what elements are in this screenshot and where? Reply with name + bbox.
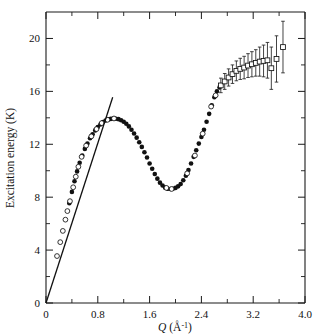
x-tick-label: 4.0 — [298, 308, 312, 320]
data-point-filled — [194, 148, 199, 153]
data-point-open-circle — [68, 199, 73, 204]
y-axis-title-text: Excitation energy (K) — [4, 108, 17, 208]
data-point-filled — [132, 131, 137, 136]
data-point-filled — [70, 190, 75, 195]
chart-svg: 00.81.62.43.24.0048121620 Q (Å-1) Excita… — [0, 0, 322, 336]
data-point-filled — [129, 127, 134, 132]
y-tick-label: 0 — [35, 297, 41, 309]
data-point-filled — [152, 172, 157, 177]
data-point-open-circle — [60, 229, 65, 234]
data-point-open-circle — [84, 143, 89, 148]
data-point-filled — [134, 135, 139, 140]
dispersion-curve-figure: 00.81.62.43.24.0048121620 Q (Å-1) Excita… — [0, 0, 322, 336]
data-point-open-circle — [200, 131, 205, 136]
x-tick-label: 2.4 — [195, 308, 209, 320]
y-axis-title: Excitation energy (K) — [4, 108, 17, 208]
data-point-filled — [189, 161, 194, 166]
data-point-open-square — [274, 57, 279, 62]
data-point-filled — [155, 176, 160, 181]
data-point-filled — [145, 155, 150, 160]
figure-background — [0, 0, 322, 336]
data-point-open-square — [269, 66, 274, 71]
data-point-filled — [150, 166, 155, 171]
data-point-open-circle — [63, 217, 68, 222]
data-point-filled — [72, 179, 77, 184]
data-point-open-circle — [71, 185, 76, 190]
data-point-open-circle — [76, 164, 81, 169]
data-point-open-circle — [79, 154, 84, 159]
data-point-open-circle — [89, 134, 94, 139]
data-point-filled — [140, 145, 145, 150]
x-tick-label: 3.2 — [246, 308, 260, 320]
data-point-open-circle — [185, 171, 190, 176]
data-point-filled — [197, 141, 202, 146]
data-point-open-circle — [164, 186, 169, 191]
y-tick-label: 16 — [29, 85, 41, 97]
y-tick-label: 8 — [35, 191, 41, 203]
data-point-open-circle — [94, 127, 99, 132]
y-tick-label: 4 — [35, 244, 41, 256]
data-point-open-circle — [65, 209, 70, 214]
data-point-open-square — [281, 45, 286, 50]
x-tick-label: 0 — [43, 308, 49, 320]
data-point-filled — [142, 150, 147, 155]
y-tick-label: 20 — [29, 32, 41, 44]
data-point-filled — [178, 182, 183, 187]
y-tick-label: 12 — [29, 138, 40, 150]
data-point-open-square — [265, 58, 270, 63]
data-point-open-circle — [169, 187, 174, 192]
data-point-filled — [207, 112, 212, 117]
data-point-open-circle — [73, 174, 78, 179]
data-point-open-circle — [193, 153, 198, 158]
data-point-filled — [147, 161, 152, 166]
data-point-open-circle — [209, 104, 214, 109]
data-point-filled — [204, 119, 209, 124]
data-point-open-circle — [58, 240, 63, 245]
x-tick-label: 0.8 — [91, 308, 105, 320]
data-point-filled — [137, 140, 142, 145]
data-point-filled — [75, 169, 80, 174]
data-point-filled — [181, 178, 186, 183]
x-tick-label: 1.6 — [143, 308, 157, 320]
data-point-open-circle — [55, 254, 60, 259]
data-point-open-circle — [112, 116, 117, 121]
data-point-open-circle — [213, 93, 218, 98]
